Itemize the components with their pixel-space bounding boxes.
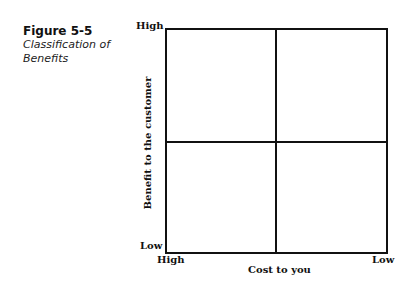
y-axis-low-label: Low xyxy=(140,240,162,251)
figure-title-line1: Classification of xyxy=(23,38,143,52)
quadrant-grid xyxy=(165,28,388,254)
y-axis-high-label: High xyxy=(136,20,164,31)
horizontal-divider xyxy=(167,141,386,143)
x-axis-title: Cost to you xyxy=(248,264,311,275)
x-axis-low-label: Low xyxy=(372,254,394,265)
figure-caption: Figure 5-5 Classification of Benefits xyxy=(23,24,143,66)
figure-number: Figure 5-5 xyxy=(23,24,143,38)
x-axis-high-label: High xyxy=(157,254,185,265)
y-axis-title: Benefit to the customer xyxy=(142,77,153,210)
figure-title-line2: Benefits xyxy=(23,52,143,66)
